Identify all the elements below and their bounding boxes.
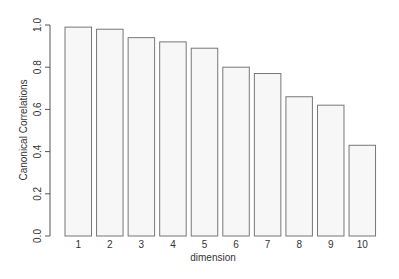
bar-dimension-7 xyxy=(254,74,280,236)
x-tick-label: 9 xyxy=(328,239,334,250)
y-tick-label: 0.6 xyxy=(32,102,43,116)
x-tick-label: 4 xyxy=(170,239,176,250)
bar-dimension-4 xyxy=(160,42,187,236)
x-tick-label: 7 xyxy=(265,239,271,250)
x-tick-label: 5 xyxy=(202,239,208,250)
x-tick-label: 2 xyxy=(107,239,113,250)
y-tick-label: 1.0 xyxy=(32,18,43,32)
x-tick-label: 8 xyxy=(296,239,302,250)
x-tick-label: 6 xyxy=(233,239,239,250)
bar-dimension-1 xyxy=(65,27,92,236)
bar-dimension-8 xyxy=(286,97,313,236)
y-tick-label: 0.8 xyxy=(32,60,43,74)
bar-dimension-2 xyxy=(97,29,124,236)
x-tick-label: 10 xyxy=(357,239,369,250)
y-tick-label: 0.2 xyxy=(32,186,43,200)
y-tick-label: 0.0 xyxy=(32,229,43,243)
bar-dimension-10 xyxy=(349,145,376,236)
bar-dimension-6 xyxy=(223,67,250,236)
bars xyxy=(65,27,376,236)
bar-chart: 0.00.20.40.60.81.0 12345678910 dimension… xyxy=(0,0,399,279)
bar-dimension-5 xyxy=(191,48,218,236)
x-tick-label: 3 xyxy=(139,239,145,250)
x-axis-title: dimension xyxy=(190,252,236,263)
y-tick-label: 0.4 xyxy=(32,144,43,158)
bar-dimension-3 xyxy=(128,38,155,236)
x-axis-labels: 12345678910 xyxy=(75,239,368,250)
bar-dimension-9 xyxy=(317,105,344,236)
y-axis-title: Canonical Correlations xyxy=(18,79,29,180)
x-tick-label: 1 xyxy=(75,239,81,250)
y-axis: 0.00.20.40.60.81.0 xyxy=(32,18,50,243)
